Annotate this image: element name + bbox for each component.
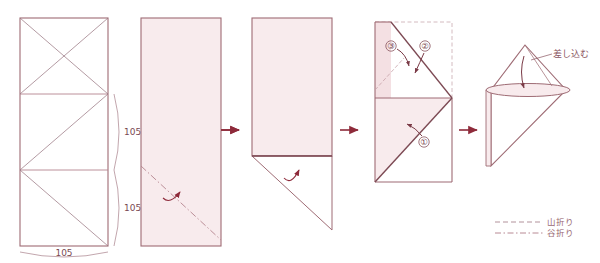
panel-4-numbered-folds: ③ ② ① bbox=[375, 22, 452, 182]
hanging-triangle bbox=[252, 156, 332, 230]
dim-brace-right-upper bbox=[114, 94, 119, 170]
crease-diagonal-middle bbox=[20, 94, 108, 170]
panel-1-crease-pattern: 105 105 105 bbox=[20, 18, 141, 258]
dimension-right-lower-label: 105 bbox=[124, 203, 141, 213]
step-1-label: ① bbox=[420, 137, 428, 147]
step-2-label: ② bbox=[421, 41, 429, 51]
crease-diagonal-bottom bbox=[20, 170, 108, 246]
legend: 山折り 谷折り bbox=[495, 217, 574, 238]
legend-mountain-label: 山折り bbox=[547, 217, 574, 227]
panel-5-finished: 差し込む bbox=[486, 45, 589, 166]
paper-body bbox=[141, 18, 221, 246]
paper-body bbox=[252, 18, 332, 156]
panel-2-folded-strip bbox=[141, 18, 221, 246]
pocket-opening bbox=[486, 84, 570, 97]
panel-3-triangle-flap bbox=[252, 18, 332, 230]
lower-triangle bbox=[491, 90, 566, 166]
dimension-bottom-label: 105 bbox=[55, 248, 72, 258]
dimension-right-upper-label: 105 bbox=[124, 127, 141, 137]
step-3-label: ③ bbox=[387, 41, 395, 51]
legend-valley-label: 谷折り bbox=[547, 228, 574, 238]
dim-brace-right-lower bbox=[114, 170, 119, 246]
origami-instruction-diagram: 105 105 105 bbox=[0, 0, 600, 263]
left-strip-fill bbox=[375, 22, 391, 98]
insert-annotation-label: 差し込む bbox=[553, 48, 589, 59]
left-flap bbox=[486, 90, 491, 166]
